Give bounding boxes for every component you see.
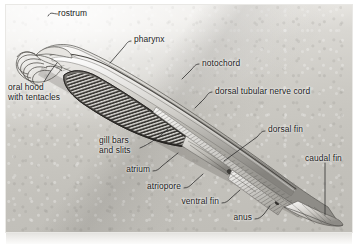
- label-oral-hood-with-tentacles: oral hood with tentacles: [8, 82, 60, 103]
- label-dorsal-fin: dorsal fin: [268, 124, 303, 134]
- plate-base-band: [6, 233, 352, 244]
- leader-atrium: [153, 153, 178, 171]
- leader-rostrum: [48, 13, 58, 16]
- leader-ventral-fin: [222, 190, 240, 203]
- label-pharynx: pharynx: [134, 34, 165, 44]
- leader-atriopore: [184, 174, 203, 188]
- label-ventral-fin: ventral fin: [159, 196, 219, 206]
- label-rostrum: rostrum: [58, 8, 87, 18]
- anatomy-figure: rostrum pharynx notochord oral hood with…: [0, 0, 360, 249]
- label-anus: anus: [212, 212, 252, 222]
- leader-notochord: [182, 64, 199, 79]
- leader-pharynx: [110, 41, 131, 63]
- label-atriopore: atriopore: [125, 181, 181, 191]
- label-gill-bars-and-slits: gill bars and slits: [99, 135, 131, 156]
- leader-nerve-cord: [195, 92, 212, 108]
- label-notochord: notochord: [202, 58, 240, 68]
- illustration-plate: rostrum pharynx notochord oral hood with…: [6, 5, 352, 232]
- label-dorsal-tubular-nerve-cord: dorsal tubular nerve cord: [215, 86, 310, 96]
- label-atrium: atrium: [102, 164, 150, 174]
- label-caudal-fin: caudal fin: [305, 153, 342, 163]
